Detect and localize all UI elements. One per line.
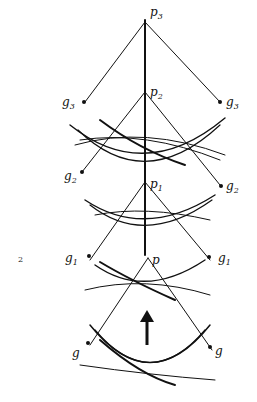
figure-number: 2 (18, 255, 23, 264)
up-arrow-icon (140, 310, 154, 345)
label-g1-left: g1 (65, 252, 78, 267)
label-g-left: g (72, 347, 80, 359)
label-g3-left: g3 (62, 96, 75, 111)
label-g1-right: g1 (218, 252, 231, 267)
diagram-drawing (0, 0, 257, 402)
diagram-canvas: p3 p2 p1 p g3 g3 g2 g2 g1 g1 g g 2 (0, 0, 257, 402)
label-p3: p3 (150, 6, 163, 21)
label-g-right: g (215, 345, 223, 357)
label-p2: p2 (150, 86, 163, 101)
label-g2-left: g2 (64, 170, 77, 185)
label-g2-right: g2 (226, 180, 239, 195)
label-g3-right: g3 (226, 96, 239, 111)
label-p1: p1 (150, 178, 163, 193)
label-p: p (152, 254, 160, 269)
